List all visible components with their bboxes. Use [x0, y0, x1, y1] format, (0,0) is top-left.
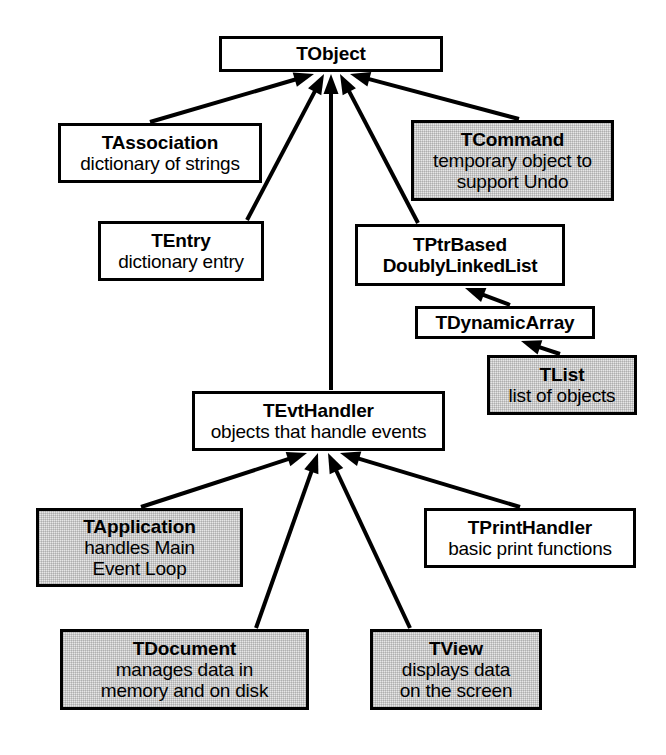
- class-diagram: TObjectTAssociationdictionary of strings…: [0, 0, 666, 755]
- class-box-tevthandler[interactable]: TEvtHandlerobjects that handle events: [192, 391, 445, 451]
- class-desc-tlist: list of objects: [509, 385, 616, 406]
- class-name-tassociation: TAssociation: [102, 132, 219, 153]
- class-name-tdocument: TDocument: [133, 638, 237, 659]
- e-tcommand-tobject-line: [365, 78, 519, 119]
- e-tassociation-tobject-line: [150, 78, 299, 122]
- e-tdocument-tevthandler-line: [256, 468, 313, 628]
- class-box-tassociation[interactable]: TAssociationdictionary of strings: [58, 123, 262, 183]
- class-desc-tcommand: temporary object to support Undo: [433, 150, 592, 193]
- class-desc-tprinthandler: basic print functions: [448, 538, 612, 559]
- class-name-tobject: TObject: [296, 43, 366, 64]
- e-tapplication-tevthandler: [141, 452, 307, 507]
- e-tapplication-tevthandler-arrowhead: [286, 452, 307, 466]
- e-tcommand-tobject: [350, 72, 519, 119]
- class-box-tview[interactable]: TViewdisplays data on the screen: [370, 629, 542, 710]
- e-tlist-tdynamicarray-arrowhead: [521, 340, 542, 354]
- e-tevthandler-tobject-arrowhead: [324, 74, 339, 94]
- e-tprinthandler-tevthandler-arrowhead: [340, 452, 361, 466]
- e-tentry-tobject-arrowhead: [308, 74, 324, 95]
- e-tassociation-tobject: [150, 72, 314, 122]
- class-name-tentry: TEntry: [151, 230, 211, 251]
- e-tview-tevthandler-arrowhead: [328, 453, 343, 474]
- class-desc-tview: displays data on the screen: [400, 659, 513, 702]
- e-tapplication-tevthandler-line: [141, 458, 292, 507]
- class-name-tevthandler: TEvtHandler: [263, 400, 374, 421]
- e-tdynamicarray-tptrbased: [465, 288, 510, 305]
- e-tptrbased-tobject-line: [347, 88, 418, 223]
- class-box-tdynamicarray[interactable]: TDynamicArray: [415, 306, 595, 339]
- class-name-tdynamicarray: TDynamicArray: [435, 312, 574, 333]
- class-desc-tentry: dictionary entry: [118, 251, 244, 272]
- class-name-line2-tptrbased: DoublyLinkedList: [383, 255, 538, 276]
- e-tdynamicarray-tptrbased-line: [480, 294, 510, 305]
- class-desc-tapplication: handles Main Event Loop: [84, 537, 195, 580]
- class-box-tdocument[interactable]: TDocumentmanages data in memory and on d…: [60, 629, 309, 710]
- e-tdynamicarray-tptrbased-arrowhead: [465, 288, 486, 302]
- class-desc-tassociation: dictionary of strings: [80, 153, 239, 174]
- class-box-tobject[interactable]: TObject: [219, 36, 443, 72]
- e-tview-tevthandler: [328, 453, 410, 628]
- class-box-tcommand[interactable]: TCommandtemporary object to support Undo: [411, 120, 614, 201]
- e-tdocument-tevthandler-arrowhead: [304, 453, 318, 474]
- class-name-tcommand: TCommand: [461, 129, 565, 150]
- class-name-tview: TView: [429, 638, 483, 659]
- class-box-tapplication[interactable]: TApplicationhandles Main Event Loop: [36, 508, 243, 587]
- class-desc-tevthandler: objects that handle events: [211, 421, 427, 442]
- e-tlist-tdynamicarray: [521, 340, 560, 354]
- class-desc-tdocument: manages data in memory and on disk: [101, 659, 268, 702]
- e-tcommand-tobject-arrowhead: [350, 72, 371, 86]
- e-tlist-tdynamicarray-line: [536, 346, 560, 354]
- class-box-tlist[interactable]: TListlist of objects: [487, 355, 637, 415]
- class-name-tptrbased: TPtrBased: [413, 234, 507, 255]
- e-tassociation-tobject-arrowhead: [293, 72, 314, 86]
- class-name-tprinthandler: TPrintHandler: [468, 517, 592, 538]
- e-tprinthandler-tevthandler: [340, 452, 520, 507]
- e-tdocument-tevthandler: [256, 453, 318, 628]
- e-tptrbased-tobject: [340, 74, 418, 223]
- e-tevthandler-tobject: [324, 74, 339, 390]
- class-name-tlist: TList: [540, 364, 585, 385]
- class-box-tprinthandler[interactable]: TPrintHandlerbasic print functions: [424, 508, 636, 568]
- e-tptrbased-tobject-arrowhead: [340, 74, 356, 95]
- e-tview-tevthandler-line: [335, 467, 410, 628]
- class-box-tptrbased[interactable]: TPtrBasedDoublyLinkedList: [355, 224, 565, 286]
- class-box-tentry[interactable]: TEntrydictionary entry: [98, 221, 264, 281]
- class-name-tapplication: TApplication: [83, 516, 195, 537]
- e-tprinthandler-tevthandler-line: [355, 458, 520, 507]
